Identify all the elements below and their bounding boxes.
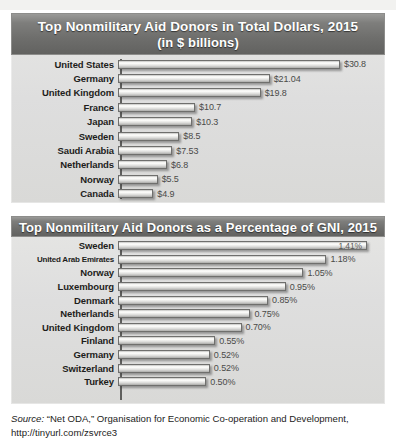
- bar-row: Sweden$8.5: [11, 129, 385, 143]
- bar: [118, 189, 153, 198]
- bar-value-label: 0.55%: [219, 336, 244, 346]
- bar-row: United Arab Emirates1.18%: [11, 253, 385, 267]
- bar-category-label: Luxembourg: [11, 281, 118, 292]
- chart1-subtitle: (in $ billions): [12, 35, 384, 51]
- bar-value-label: $6.8: [171, 160, 188, 170]
- bar-category-label: United Kingdom: [11, 322, 118, 333]
- bar: 1.41%: [118, 241, 367, 250]
- bar-category-label: Netherlands: [11, 308, 118, 319]
- chart-panel-total-dollars: Top Nonmilitary Aid Donors in Total Doll…: [11, 13, 385, 203]
- bar-row: Norway1.05%: [11, 266, 385, 280]
- bar: [118, 146, 172, 155]
- bar-row: Sweden1.41%: [11, 239, 385, 253]
- bar-track: $21.04: [118, 71, 385, 85]
- bar-category-label: Canada: [11, 188, 118, 199]
- bar: [118, 103, 195, 112]
- bar-category-label: Japan: [11, 116, 118, 127]
- bar-category-label: Finland: [11, 335, 118, 346]
- source-note: Source: “Net ODA,” Organisation for Econ…: [11, 412, 385, 439]
- bar: [118, 323, 242, 332]
- bar-track: 0.55%: [118, 334, 385, 348]
- bar-track: 0.70%: [118, 321, 385, 335]
- chart2-title-banner: Top Nonmilitary Aid Donors as a Percenta…: [11, 216, 385, 237]
- bar-track: $8.5: [118, 129, 385, 143]
- source-label: Source:: [11, 413, 44, 424]
- bar: [118, 132, 179, 141]
- bar-track: 0.75%: [118, 307, 385, 321]
- bar-category-label: United Kingdom: [11, 87, 118, 98]
- bar-track: 0.85%: [118, 293, 385, 307]
- bar-value-label: $30.8: [344, 59, 366, 69]
- bar: [118, 160, 167, 169]
- bar-row: Switzerland0.52%: [11, 361, 385, 375]
- bar-value-label: $7.53: [176, 146, 198, 156]
- bar: [118, 336, 215, 345]
- bar: [118, 60, 340, 69]
- bar-category-label: Saudi Arabia: [11, 145, 118, 156]
- bar-category-label: Netherlands: [11, 159, 118, 170]
- bar-value-label: $8.5: [183, 131, 200, 141]
- bar-track: 0.52%: [118, 348, 385, 362]
- bar-value-label: $10.7: [199, 102, 221, 112]
- bar-value-label: $10.3: [196, 117, 218, 127]
- bar-row: United Kingdom$19.8: [11, 86, 385, 100]
- bar-track: 0.52%: [118, 361, 385, 375]
- bar-value-label: $21.04: [274, 74, 301, 84]
- bar-category-label: United States: [11, 59, 118, 70]
- bar-category-label: Norway: [11, 174, 118, 185]
- bar-track: $5.5: [118, 172, 385, 186]
- bar-category-label: Turkey: [11, 376, 118, 387]
- bar-track: $4.9: [118, 187, 385, 201]
- bar-category-label: France: [11, 102, 118, 113]
- page-top-strip: [0, 0, 396, 10]
- bar-value-label: 1.18%: [330, 254, 355, 264]
- infographic-page: Top Nonmilitary Aid Donors in Total Doll…: [0, 0, 396, 444]
- bar-row: United States$30.8: [11, 57, 385, 71]
- bar: [118, 309, 250, 318]
- chart2-plot-area: Sweden1.41%United Arab Emirates1.18%Norw…: [11, 239, 385, 402]
- bar-row: Finland0.55%: [11, 334, 385, 348]
- bar-category-label: Denmark: [11, 295, 118, 306]
- bar-track: $10.7: [118, 100, 385, 114]
- bar-category-label: Sweden: [11, 131, 118, 142]
- bar-category-label: Norway: [11, 267, 118, 278]
- bar-row: Netherlands0.75%: [11, 307, 385, 321]
- bar-category-label: Switzerland: [11, 363, 118, 374]
- bar-track: 1.05%: [118, 266, 385, 280]
- chart1-bar-rows: United States$30.8Germany$21.04United Ki…: [11, 57, 385, 201]
- bar-row: Saudi Arabia$7.53: [11, 143, 385, 157]
- bar-track: 0.95%: [118, 280, 385, 294]
- bar-value-label: 0.75%: [254, 309, 279, 319]
- bar-value-label: 1.41%: [338, 241, 362, 251]
- bar-row: Luxembourg0.95%: [11, 280, 385, 294]
- bar-track: $19.8: [118, 86, 385, 100]
- bar-value-label: 0.52%: [214, 363, 239, 373]
- bar-value-label: 0.52%: [214, 350, 239, 360]
- bar: [118, 282, 286, 291]
- bar-category-label: Germany: [11, 349, 118, 360]
- bar-track: 1.18%: [118, 253, 385, 267]
- bar-row: Canada$4.9: [11, 187, 385, 201]
- chart2-bar-rows: Sweden1.41%United Arab Emirates1.18%Norw…: [11, 239, 385, 389]
- bar-value-label: $4.9: [157, 189, 174, 199]
- bar-value-label: 0.95%: [290, 282, 315, 292]
- bar-value-label: 0.70%: [246, 322, 271, 332]
- bar-row: Germany0.52%: [11, 348, 385, 362]
- bar-track: $10.3: [118, 115, 385, 129]
- bar-value-label: 0.50%: [210, 377, 235, 387]
- bar-value-label: $19.8: [265, 88, 287, 98]
- bar-track: $7.53: [118, 143, 385, 157]
- bar-row: Norway$5.5: [11, 172, 385, 186]
- bar-row: Germany$21.04: [11, 71, 385, 85]
- bar: [118, 296, 268, 305]
- bar-row: Turkey0.50%: [11, 375, 385, 389]
- bar-category-label: Germany: [11, 73, 118, 84]
- bar: [118, 364, 210, 373]
- bar-row: Japan$10.3: [11, 115, 385, 129]
- bar-track: 1.41%: [118, 239, 385, 253]
- bar-category-label: United Arab Emirates: [11, 255, 118, 264]
- bar: [118, 88, 261, 97]
- bar-row: Denmark0.85%: [11, 293, 385, 307]
- bar-row: France$10.7: [11, 100, 385, 114]
- chart2-title: Top Nonmilitary Aid Donors as a Percenta…: [19, 220, 377, 235]
